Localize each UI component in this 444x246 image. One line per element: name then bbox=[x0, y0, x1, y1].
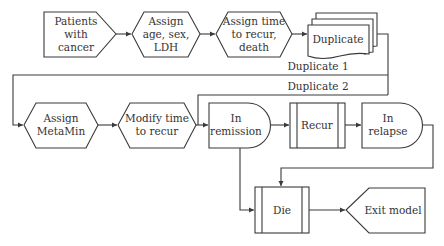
node-label: age, sex, bbox=[143, 28, 190, 40]
edge-remission-to-die bbox=[240, 148, 254, 210]
node-duplicate: Duplicate bbox=[308, 13, 377, 59]
node-label: Duplicate bbox=[312, 33, 363, 45]
node-label: Assign bbox=[147, 15, 183, 27]
node-in-remission: In remission bbox=[209, 103, 271, 148]
node-label: death bbox=[239, 41, 269, 53]
node-label: to recur, bbox=[232, 28, 277, 40]
node-label: to recur bbox=[136, 125, 180, 137]
node-label: Modify time bbox=[125, 112, 189, 124]
edge-label-duplicate-1: Duplicate 1 bbox=[287, 60, 348, 72]
node-assign-age-sex-ldh: Assign age, sex, LDH bbox=[132, 12, 200, 57]
node-label: In bbox=[383, 112, 394, 124]
node-label: LDH bbox=[154, 41, 179, 53]
node-label: Patients bbox=[54, 15, 97, 27]
node-exit-model: Exit model bbox=[346, 188, 425, 233]
node-label: Exit model bbox=[364, 204, 422, 216]
node-recur: Recur bbox=[290, 103, 345, 148]
node-modify-time-to-recur: Modify time to recur bbox=[118, 103, 196, 148]
node-label: In bbox=[231, 112, 242, 124]
node-in-relapse: In relapse bbox=[362, 103, 423, 148]
node-label: relapse bbox=[368, 125, 407, 137]
node-label: remission bbox=[210, 125, 262, 137]
flowchart-canvas: Patients with cancer Assign age, sex, LD… bbox=[0, 0, 444, 246]
connector-duplicate bbox=[377, 34, 388, 95]
node-label: with bbox=[64, 28, 88, 40]
node-label: Assign time bbox=[222, 15, 285, 27]
node-assign-metamin: Assign MetaMin bbox=[24, 103, 98, 148]
node-label: Die bbox=[273, 204, 291, 216]
node-label: cancer bbox=[58, 41, 95, 53]
node-label: Assign bbox=[42, 112, 78, 124]
node-label: Recur bbox=[301, 119, 334, 131]
node-die: Die bbox=[255, 187, 309, 233]
node-patients-with-cancer: Patients with cancer bbox=[44, 12, 116, 57]
node-assign-time-to-recur-death: Assign time to recur, death bbox=[216, 12, 292, 57]
node-label: MetaMin bbox=[37, 125, 86, 137]
edge-label-duplicate-2: Duplicate 2 bbox=[287, 80, 348, 92]
